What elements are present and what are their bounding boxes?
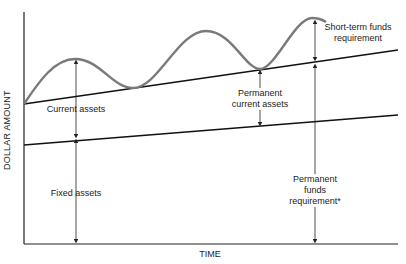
x-axis-label: TIME xyxy=(195,249,225,260)
permanent-funds-label: Permanent funds requirement* xyxy=(284,174,346,207)
short-term-funds-line1: Short-term funds xyxy=(320,22,396,33)
current-assets-label: Current assets xyxy=(46,104,106,115)
y-axis-label: DOLLAR AMOUNT xyxy=(2,100,12,170)
fixed-assets-label: Fixed assets xyxy=(48,188,104,199)
short-term-funds-line2: requirement xyxy=(320,33,396,44)
permanent-current-assets-line2: current assets xyxy=(228,99,292,110)
permanent-current-assets-label: Permanent current assets xyxy=(228,88,292,110)
permanent-current-assets-line1: Permanent xyxy=(228,88,292,99)
permanent-funds-line2: funds xyxy=(284,185,346,196)
permanent-funds-line3: requirement* xyxy=(284,196,346,207)
permanent-funds-line1: Permanent xyxy=(284,174,346,185)
total-permanent-assets-line xyxy=(24,50,398,104)
fixed-assets-line xyxy=(24,115,398,145)
short-term-funds-label: Short-term funds requirement xyxy=(320,22,396,44)
